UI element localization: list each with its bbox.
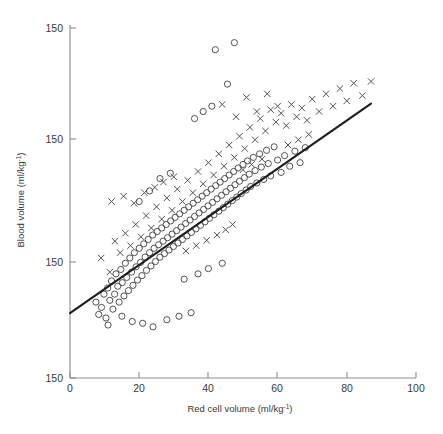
- data-point-circle: [297, 160, 303, 166]
- data-point-cross: [323, 91, 329, 97]
- y-tick-label: 150: [45, 133, 63, 145]
- data-point-cross: [285, 142, 291, 148]
- data-point-cross: [254, 109, 260, 115]
- data-point-circle: [98, 304, 104, 310]
- data-point-cross: [180, 199, 186, 205]
- data-point-cross: [299, 105, 305, 111]
- data-point-cross: [221, 163, 227, 169]
- data-point-cross: [294, 114, 300, 120]
- data-point-circle: [271, 144, 277, 150]
- data-point-circle: [119, 280, 125, 286]
- y-tick-label: 150: [45, 256, 63, 268]
- y-axis-title: Blood volume (ml/kg-1): [15, 152, 27, 247]
- data-point-cross: [244, 94, 250, 100]
- data-point-cross: [107, 269, 113, 275]
- data-point-cross: [237, 133, 243, 139]
- data-point-cross: [289, 102, 295, 108]
- scatter-plot-figure: 150 150 150 150 0 20 40 60 80 100 Red ce…: [0, 0, 443, 434]
- data-point-cross: [316, 109, 322, 115]
- data-point-circle: [246, 171, 252, 177]
- data-point-cross: [121, 193, 127, 199]
- data-point-cross: [183, 248, 189, 254]
- data-point-circle: [122, 260, 128, 266]
- x-tick-label: 100: [407, 382, 425, 394]
- x-tick-label: 0: [67, 382, 73, 394]
- data-point-cross: [330, 103, 336, 109]
- data-point-cross: [141, 190, 147, 196]
- data-point-circle: [224, 81, 230, 87]
- data-point-cross: [174, 186, 180, 192]
- y-tick-labels: 150 150 150 150: [45, 22, 63, 384]
- data-point-cross: [214, 232, 220, 238]
- data-point-cross: [368, 79, 374, 85]
- x-tick-label: 40: [202, 382, 214, 394]
- data-point-cross: [273, 119, 279, 125]
- data-point-cross: [306, 132, 312, 138]
- data-point-cross: [233, 114, 239, 120]
- data-point-circle: [107, 297, 113, 303]
- data-point-circle: [252, 168, 258, 174]
- y-tick-label: 150: [45, 22, 63, 34]
- data-point-cross: [264, 91, 270, 97]
- data-point-cross: [117, 250, 123, 256]
- y-axis-title-main: Blood volume (ml/kg: [15, 161, 26, 247]
- data-point-cross: [112, 238, 118, 244]
- data-point-cross: [230, 222, 236, 228]
- data-point-circle: [188, 310, 194, 316]
- data-point-circle: [292, 148, 298, 154]
- data-point-cross: [219, 102, 225, 108]
- y-axis-title-close: ): [15, 152, 26, 155]
- axis-lines: [70, 25, 416, 378]
- data-point-cross: [278, 110, 284, 116]
- data-point-circle: [136, 198, 142, 204]
- data-point-circle: [119, 313, 125, 319]
- x-axis-title-close: ): [289, 403, 292, 414]
- data-point-cross: [122, 230, 128, 236]
- data-point-cross: [309, 96, 315, 102]
- data-point-circle: [129, 318, 135, 324]
- x-tick-labels: 0 20 40 60 80 100: [67, 382, 425, 394]
- data-point-circle: [112, 291, 118, 297]
- data-point-circle: [231, 40, 237, 46]
- plot-canvas: 150 150 150 150 0 20 40 60 80 100 Red ce…: [0, 0, 443, 434]
- data-point-circle: [195, 271, 201, 277]
- data-point-circle: [257, 151, 263, 157]
- data-point-circle: [96, 311, 102, 317]
- data-point-cross: [231, 154, 237, 160]
- data-point-cross: [138, 234, 144, 240]
- data-point-circle: [130, 282, 136, 288]
- data-point-circle: [200, 108, 206, 114]
- data-point-circle: [212, 47, 218, 53]
- data-point-cross: [109, 199, 115, 205]
- data-point-cross: [143, 213, 149, 219]
- data-point-cross: [133, 222, 139, 228]
- data-point-circle: [127, 255, 133, 261]
- data-point-cross: [128, 243, 134, 249]
- data-point-circle: [146, 188, 152, 194]
- data-point-cross: [206, 160, 212, 166]
- data-point-cross: [154, 204, 160, 210]
- data-point-cross: [159, 216, 165, 222]
- data-point-cross: [283, 123, 289, 129]
- data-point-circle: [176, 313, 182, 319]
- data-point-cross: [131, 200, 137, 206]
- data-point-cross: [242, 146, 248, 152]
- data-point-circle: [287, 163, 293, 169]
- data-point-cross: [169, 207, 175, 213]
- data-point-cross: [200, 181, 206, 187]
- data-point-cross: [337, 86, 343, 92]
- data-point-cross: [295, 137, 301, 143]
- data-point-circle: [110, 306, 116, 312]
- data-point-cross: [275, 103, 281, 109]
- data-point-circle: [164, 317, 170, 323]
- x-tick-label: 20: [133, 382, 145, 394]
- regression-line-layer: [70, 104, 371, 314]
- data-point-circle: [191, 115, 197, 121]
- data-point-circle: [205, 265, 211, 271]
- data-point-circle: [93, 299, 99, 305]
- data-point-cross: [152, 184, 158, 190]
- data-point-cross: [263, 128, 269, 134]
- data-point-circle: [140, 320, 146, 326]
- data-point-cross: [247, 124, 253, 130]
- data-point-cross: [226, 142, 232, 148]
